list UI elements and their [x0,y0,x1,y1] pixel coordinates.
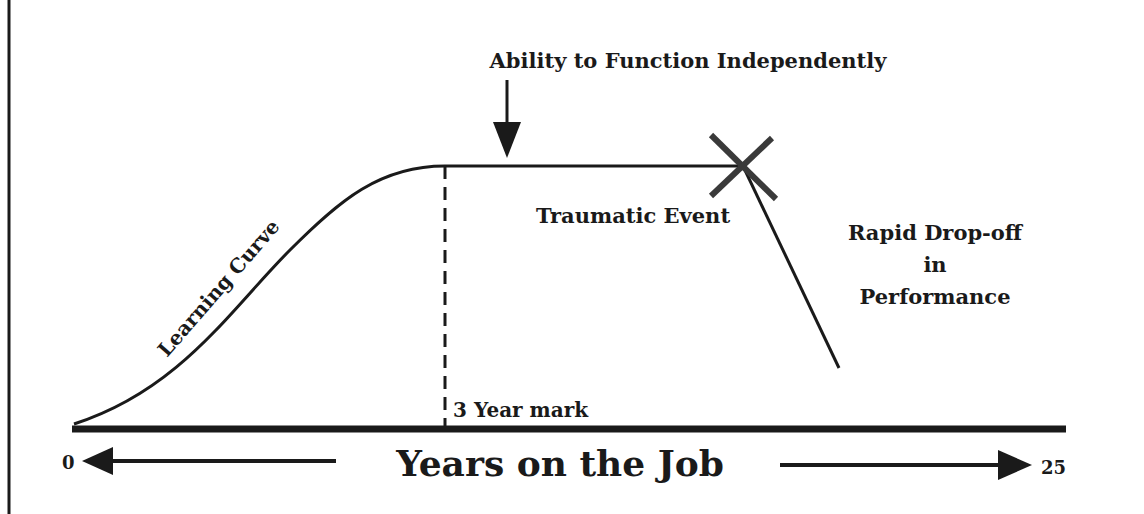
learning-curve-label: Learning Curve [153,215,285,362]
right-arrow-icon [780,450,1032,480]
axis-start-label: 0 [62,452,75,473]
dropoff-line [743,166,839,368]
dropoff-label-line3: Performance [860,284,1011,309]
ability-label: Ability to Function Independently [489,48,888,73]
dropoff-label-line1: Rapid Drop-off [848,220,1024,245]
diagram-canvas: Ability to Function Independently Trauma… [0,0,1144,514]
axis-end-label: 25 [1041,457,1066,478]
left-arrow-icon [82,447,336,475]
learning-curve-line [74,166,445,424]
dropoff-label-line2: in [923,252,946,277]
three-year-mark-label: 3 Year mark [453,398,589,422]
traumatic-event-label: Traumatic Event [536,203,730,228]
axis-title: Years on the Job [395,442,724,484]
down-arrow-icon [493,80,521,158]
